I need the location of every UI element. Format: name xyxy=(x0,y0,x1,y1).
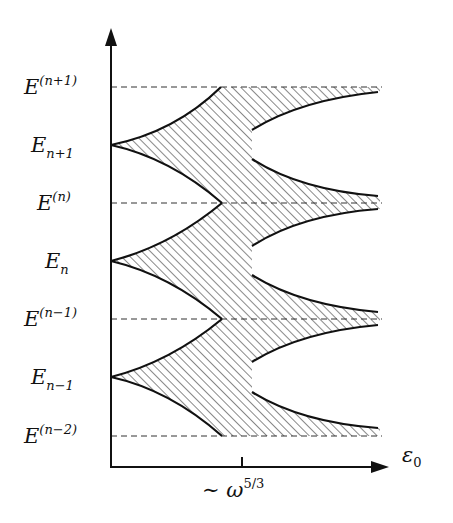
energy-band-diagram: E(n+1) En+1 E(n) En E(n−1) En−1 E(n−2) ε… xyxy=(0,0,453,523)
label-E-n-sup: E(n) xyxy=(36,189,71,215)
label-E-n-plus-1-sub: En+1 xyxy=(30,133,74,161)
hatched-band-region-right xyxy=(252,87,380,436)
y-axis-labels: E(n+1) En+1 E(n) En E(n−1) En−1 E(n−2) xyxy=(23,73,77,448)
label-E-n-minus-1-sup: E(n−1) xyxy=(23,305,77,331)
label-E-n-sub: En xyxy=(44,249,69,277)
label-E-n-minus-2-sup: E(n−2) xyxy=(23,422,77,448)
band-edge-curves-right xyxy=(252,92,378,428)
x-axis-label-epsilon-0: ε0 xyxy=(402,443,422,470)
x-axis-arrow-icon xyxy=(371,461,389,473)
label-E-n-plus-1-sup: E(n+1) xyxy=(23,73,77,99)
x-axis-tick-label-omega-5-3: ∼ ω5/3 xyxy=(202,476,264,502)
y-axis-arrow-icon xyxy=(105,28,117,46)
label-E-n-minus-1-sub: En−1 xyxy=(30,365,74,393)
x-axis-labels: ε0 ∼ ω5/3 xyxy=(202,443,422,502)
